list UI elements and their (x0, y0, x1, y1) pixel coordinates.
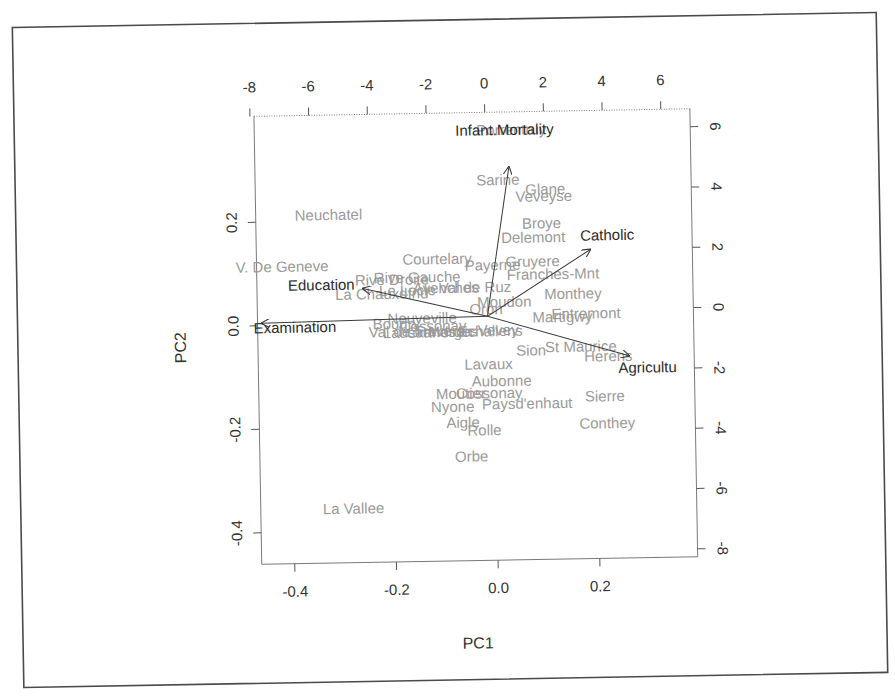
top-tick-label: 2 (539, 73, 548, 90)
right-tick-label: 0 (710, 303, 727, 312)
left-tick-label: -0.2 (226, 417, 243, 443)
bottom-tick-label: 0.0 (488, 579, 509, 596)
variable-label: Agricultu (618, 358, 677, 376)
top-tick-label: -6 (301, 77, 315, 94)
observation-label: Delemont (501, 228, 566, 246)
left-tick-label: 0.0 (224, 316, 241, 337)
plot-box-left (254, 116, 262, 564)
x-axis-title: PC1 (462, 634, 494, 652)
plot-box-right (690, 109, 698, 557)
top-tick-label: -2 (419, 75, 433, 92)
observation-label: Lavaux (464, 355, 513, 373)
observation-label: Nyone (431, 398, 475, 416)
scanned-figure: -0.4-0.20.00.2 0.20.0-0.2-0.4 -8-6-4-202… (0, 0, 895, 697)
observation-label: Sierre (585, 387, 625, 405)
top-tick-label: -4 (360, 76, 374, 93)
right-tick-label: -4 (712, 421, 729, 435)
outer-frame (12, 12, 887, 687)
observation-label: Sarine (476, 171, 520, 189)
variable-label: Infant.Mortality (455, 120, 554, 139)
left-tick-label: 0.2 (223, 212, 240, 233)
observation-label: Sion (516, 341, 546, 359)
variable-label: Examination (253, 318, 336, 336)
top-tick-label: 0 (480, 74, 489, 91)
variable-label: Education (288, 276, 355, 294)
observation-label: Conthey (579, 414, 636, 432)
y-axis-title: PC2 (172, 332, 190, 364)
right-tick-label: 4 (708, 182, 725, 191)
top-tick-label: -8 (243, 78, 257, 95)
bottom-tick-label: -0.4 (282, 582, 308, 599)
observation-label: Oron (469, 300, 503, 318)
bottom-axis-pc1: -0.4-0.20.00.2 (282, 558, 611, 600)
observation-label: Morges (428, 322, 478, 340)
left-tick-label: -0.4 (228, 520, 245, 546)
bottom-tick-label: 0.2 (590, 577, 611, 594)
observation-label: V. De Geneve (235, 257, 328, 276)
observation-label: Veveyse (515, 187, 572, 205)
plot-box-top (254, 109, 690, 117)
top-tick-label: 6 (656, 71, 665, 88)
observation-label: Paysd'enhaut (482, 394, 574, 413)
top-tick-label: 4 (597, 72, 606, 89)
right-tick-label: -6 (713, 481, 730, 495)
biplot-figure: -0.4-0.20.00.2 0.20.0-0.2-0.4 -8-6-4-202… (0, 0, 895, 697)
observation-label: Martigwy (532, 307, 593, 325)
plot-box-bottom (262, 557, 698, 565)
observation-label: La Vallee (323, 499, 385, 517)
observation-label: Courtelary (402, 250, 472, 268)
right-tick-label: 2 (709, 243, 726, 252)
observation-label: Monthey (544, 284, 602, 302)
variable-label: Catholic (580, 226, 635, 244)
bottom-tick-label: -0.2 (384, 581, 410, 598)
right-tick-label: -8 (714, 542, 731, 556)
right-tick-label: -2 (711, 361, 728, 375)
observation-label: Orbe (455, 447, 489, 465)
observation-label: Rolle (467, 421, 501, 439)
right-tick-label: 6 (707, 122, 724, 131)
top-axis-scores: -8-6-4-20246 (243, 71, 665, 116)
observation-label: Neuchatel (295, 205, 363, 223)
